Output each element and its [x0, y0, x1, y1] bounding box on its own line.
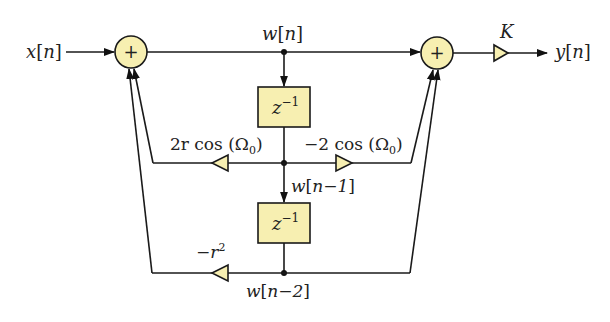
w-n-2-label: w[n−2]	[246, 281, 310, 301]
w-n-1-label: w[n−1]	[291, 176, 355, 196]
gain-k-triangle	[494, 45, 508, 61]
gain-a2-triangle	[212, 265, 228, 281]
gain-a1-label: 2r cos (Ω0)	[170, 134, 263, 157]
summing-junction-right: +	[421, 37, 453, 69]
wire-a1-to-left-summer	[134, 69, 153, 163]
delay-block-1: z−1	[258, 87, 310, 127]
output-signal-label: y[n]	[554, 41, 591, 62]
svg-text:+: +	[429, 42, 444, 63]
svg-text:+: +	[123, 41, 138, 62]
gain-a2-label: −r2	[196, 241, 225, 262]
gain-b1-label: −2 cos (Ω0)	[304, 134, 403, 157]
wire-b2-to-right-summer	[410, 70, 438, 273]
input-signal-label: x[n]	[26, 41, 62, 62]
gain-b1-triangle	[336, 155, 352, 171]
wire-b1-to-right-summer	[411, 70, 433, 163]
gain-k-label: K	[499, 21, 515, 42]
delay-block-2: z−1	[258, 203, 310, 243]
block-diagram: x[n] w[n] z−1 2r cos (Ω0) −2 cos (Ω0) w[…	[0, 0, 610, 322]
gain-a1-triangle	[212, 155, 228, 171]
summing-junction-left: +	[115, 36, 147, 68]
w-n-label: w[n]	[262, 23, 303, 44]
